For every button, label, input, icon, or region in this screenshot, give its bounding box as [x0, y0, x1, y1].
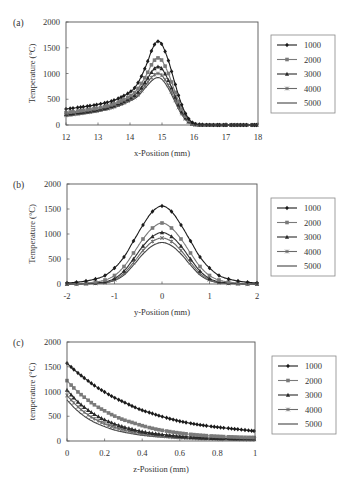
series-2000-marker: [144, 425, 148, 429]
series-1000-marker: [150, 49, 154, 53]
series-1000-marker: [103, 273, 107, 277]
series-2000-marker: [86, 398, 90, 402]
series-2000-marker: [79, 393, 83, 397]
series-2000-marker: [143, 76, 147, 80]
series-2000-marker: [168, 430, 172, 434]
x-tick-label: 1: [253, 448, 257, 458]
chart-panel-b: (b)0500100015002000-2-1012y-Position (mm…: [0, 165, 342, 330]
series-2000-marker: [167, 72, 171, 76]
series-2000-marker: [233, 435, 237, 439]
y-tick-label: 0: [57, 436, 61, 446]
series-1000-marker: [123, 400, 127, 404]
series-1000-marker: [240, 427, 244, 431]
series-1000-marker: [212, 425, 216, 429]
chart-a-svg: (a)050010001500200012131415161718x-Posit…: [0, 0, 342, 165]
series-4000-marker: [93, 417, 97, 421]
x-tick-label: 17: [222, 132, 231, 142]
series-2000-marker: [208, 274, 212, 278]
series-1000-marker: [170, 69, 174, 73]
series-4000-marker: [179, 249, 183, 253]
series-1000-marker: [140, 408, 144, 412]
x-axis-label: z-Position (mm): [133, 464, 189, 474]
series-2000-marker: [179, 237, 183, 241]
series-1000-marker: [189, 421, 193, 425]
series-4000-marker: [163, 78, 167, 82]
series-1000-marker: [127, 402, 131, 406]
series-2000-marker: [103, 278, 107, 282]
series-1000-marker: [219, 425, 223, 429]
x-tick-label: 0.2: [99, 448, 110, 458]
series-2000-marker: [153, 58, 157, 62]
legend-label: 1000: [304, 203, 321, 213]
series-4000-marker: [151, 240, 155, 244]
y-tick-label: 1000: [43, 69, 60, 79]
series-1000-marker: [222, 426, 226, 430]
x-axis-label: x-Position (mm): [134, 148, 190, 158]
series-1000-marker: [165, 416, 169, 420]
series-1000-marker: [171, 417, 175, 421]
series-2000-marker: [157, 428, 161, 432]
series-1000-marker: [103, 390, 107, 394]
series-2000-marker: [150, 63, 154, 67]
series-2000-marker: [227, 435, 231, 439]
x-tick-label: 18: [254, 132, 263, 142]
series-2000-marker: [129, 94, 133, 98]
series-2000-marker: [146, 70, 150, 74]
legend: 10002000300040005000: [271, 198, 335, 276]
series-2000-marker: [184, 432, 188, 436]
x-tick-label: 12: [62, 132, 71, 142]
series-1000-marker: [157, 413, 161, 417]
series-1000-marker: [192, 422, 196, 426]
series-1000-marker: [167, 58, 171, 62]
x-tick-label: 0.4: [137, 448, 148, 458]
series-2000-marker: [178, 431, 182, 435]
series-2000-marker: [189, 251, 193, 255]
series-1000-marker: [195, 422, 199, 426]
x-tick-label: 1: [207, 291, 211, 301]
y-tick-label: 1000: [44, 229, 61, 239]
legend-label: 1000: [304, 40, 321, 50]
series-2000-marker: [141, 237, 145, 241]
legend-label: 2000: [304, 218, 321, 228]
x-tick-label: 13: [94, 132, 103, 142]
series-1000-marker: [106, 100, 110, 104]
y-tick-label: 500: [48, 254, 61, 264]
series-1000-marker: [144, 409, 148, 413]
series-1000-marker: [147, 410, 151, 414]
series-2000-marker: [212, 434, 216, 438]
series-1000-marker: [216, 425, 220, 429]
y-tick-label: 0: [56, 120, 60, 130]
series-2000-marker: [95, 106, 99, 110]
series-2000-marker: [130, 421, 134, 425]
series-1000-marker: [178, 419, 182, 423]
series-1000: [65, 204, 259, 285]
series-4000-marker: [170, 240, 174, 244]
x-tick-label: -1: [111, 291, 118, 301]
series-2000-marker: [140, 424, 144, 428]
series-1000-marker: [71, 106, 75, 110]
y-tick-label: 2000: [44, 337, 61, 347]
series-1000-marker: [130, 404, 134, 408]
series-2000-marker: [189, 433, 193, 437]
y-tick-label: 500: [48, 411, 61, 421]
series-1000-marker: [107, 392, 111, 396]
series-2000-marker: [222, 435, 226, 439]
series-2000-marker: [97, 406, 101, 410]
y-tick-label: 1500: [43, 43, 60, 53]
series-2000-marker: [71, 110, 75, 114]
series-1000-marker: [160, 414, 164, 418]
series-2000-marker: [160, 429, 164, 433]
series-2000-marker: [120, 417, 124, 421]
series-1000-marker: [184, 420, 188, 424]
series-2000-marker: [123, 418, 127, 422]
y-tick-label: 1000: [44, 387, 61, 397]
series-1000-marker: [113, 396, 117, 400]
series-1000-marker: [163, 49, 167, 53]
x-tick-label: 0.8: [212, 448, 223, 458]
legend: 10002000300040005000: [272, 356, 336, 434]
series-group: [65, 204, 259, 286]
chart-b-svg: (b)0500100015002000-2-1012y-Position (mm…: [0, 165, 342, 330]
legend-label: 5000: [304, 98, 321, 108]
series-4000-marker: [160, 73, 164, 77]
series-2000-marker: [113, 414, 117, 418]
